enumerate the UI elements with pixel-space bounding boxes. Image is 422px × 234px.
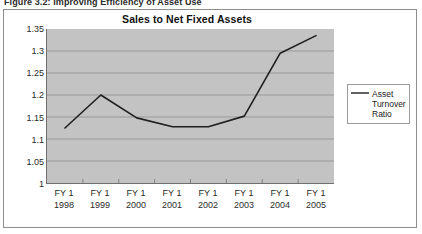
y-tick-label: 1.05 — [2, 157, 44, 167]
plot-area — [46, 29, 334, 184]
figure-caption: Figure 3.2: Improving Efficiency of Asse… — [4, 0, 334, 8]
x-axis: FY 11998FY 11999FY 12000FY 12001FY 12002… — [46, 187, 334, 221]
x-tick-label: FY 12001 — [162, 187, 182, 211]
x-tick-label: FY 12003 — [234, 187, 254, 211]
series-line-asset-turnover-ratio — [65, 36, 316, 128]
gridlines — [47, 51, 334, 161]
y-tick-label: 1.2 — [2, 90, 44, 100]
x-tick-marks — [83, 179, 298, 183]
y-tick-label: 1.25 — [2, 68, 44, 78]
line-swatch-icon — [351, 89, 369, 97]
line-chart-svg — [47, 29, 334, 183]
legend-label: Asset Turnover Ratio — [372, 89, 409, 119]
y-axis: 1.351.31.251.21.151.11.051 — [0, 29, 44, 184]
y-tick-label: 1.1 — [2, 135, 44, 145]
y-tick-label: 1 — [2, 179, 44, 189]
x-tick-label: FY 11999 — [90, 187, 110, 211]
figure-container: Figure 3.2: Improving Efficiency of Asse… — [0, 0, 422, 234]
x-tick-label: FY 12004 — [270, 187, 290, 211]
legend-entry: Asset Turnover Ratio — [351, 89, 409, 119]
y-tick-label: 1.3 — [2, 46, 44, 56]
x-tick-label: FY 12002 — [198, 187, 218, 211]
y-tick-label: 1.35 — [2, 24, 44, 34]
x-tick-label: FY 12005 — [306, 187, 326, 211]
chart-title: Sales to Net Fixed Assets — [46, 13, 328, 25]
chart-legend: Asset Turnover Ratio — [347, 84, 410, 124]
x-tick-label: FY 12000 — [126, 187, 146, 211]
x-tick-label: FY 11998 — [54, 187, 74, 211]
y-tick-label: 1.15 — [2, 113, 44, 123]
